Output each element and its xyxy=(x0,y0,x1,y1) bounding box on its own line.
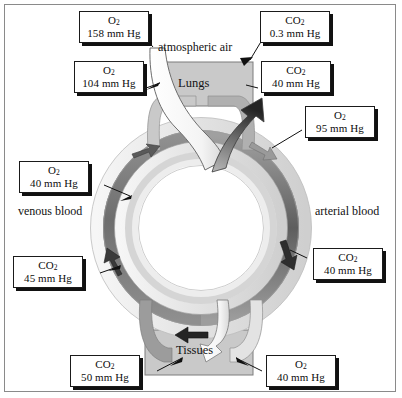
gas-value: 40 mm Hg xyxy=(30,178,78,190)
gas-formula: O2 xyxy=(103,65,115,77)
vessel-inner-light xyxy=(120,147,282,309)
gas-value: 50 mm Hg xyxy=(81,372,129,384)
gas-value: 104 mm Hg xyxy=(82,78,135,90)
gas-value: 40 mm Hg xyxy=(277,372,325,384)
arterial-blood-label: arterial blood xyxy=(315,204,379,219)
diagram-canvas: Lungs Tissues atmospheric air venous blo… xyxy=(0,0,402,398)
gas-formula: O2 xyxy=(48,165,60,177)
callout-o2-alveolar[interactable]: O2 104 mm Hg xyxy=(74,61,144,93)
gas-value: 45 mm Hg xyxy=(24,273,72,285)
gas-value: 40 mm Hg xyxy=(324,265,372,277)
callout-o2-venous[interactable]: O2 40 mm Hg xyxy=(19,161,89,193)
gas-value: 0.3 mm Hg xyxy=(270,28,321,40)
gas-value: 158 mm Hg xyxy=(87,28,140,40)
callout-o2-atmospheric[interactable]: O2 158 mm Hg xyxy=(79,11,149,43)
callout-o2-arterial[interactable]: O2 95 mm Hg xyxy=(305,106,375,138)
gas-formula: CO2 xyxy=(286,65,306,77)
gas-formula: CO2 xyxy=(285,15,305,27)
gas-formula: O2 xyxy=(295,359,307,371)
callout-o2-tissue[interactable]: O2 40 mm Hg xyxy=(266,355,336,387)
circulation-artwork xyxy=(0,0,402,398)
gas-formula: O2 xyxy=(108,15,120,27)
callout-co2-alveolar[interactable]: CO2 40 mm Hg xyxy=(261,61,331,93)
gas-value: 40 mm Hg xyxy=(272,78,320,90)
callout-co2-expired[interactable]: CO2 0.3 mm Hg xyxy=(260,11,330,43)
gas-formula: CO2 xyxy=(338,252,358,264)
gas-formula: CO2 xyxy=(95,359,115,371)
atmospheric-air-label: atmospheric air xyxy=(158,40,232,55)
callout-co2-arterial[interactable]: CO2 40 mm Hg xyxy=(313,248,383,280)
gas-value: 95 mm Hg xyxy=(316,123,364,135)
callout-co2-venous[interactable]: CO2 45 mm Hg xyxy=(13,256,83,288)
tissues-label: Tissues xyxy=(176,343,213,358)
venous-blood-label: venous blood xyxy=(18,204,82,219)
lungs-label: Lungs xyxy=(178,76,209,91)
gas-formula: O2 xyxy=(334,110,346,122)
callout-co2-tissue[interactable]: CO2 50 mm Hg xyxy=(70,355,140,387)
gas-formula: CO2 xyxy=(38,260,58,272)
